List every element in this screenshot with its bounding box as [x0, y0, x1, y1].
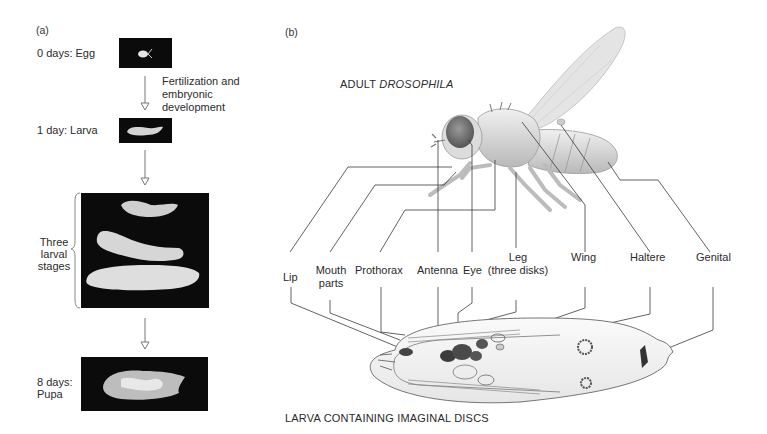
label-mouth-parts: Mouth parts [311, 264, 351, 290]
label-wing: Wing [571, 251, 596, 264]
label-haltere: Haltere [630, 251, 665, 264]
larva-with-discs [370, 318, 673, 403]
label-genital: Genital [696, 251, 731, 264]
label-leg: Leg (three disks) [487, 251, 549, 277]
adult-fly [430, 27, 625, 210]
fly-and-larva-illustration [0, 0, 767, 434]
label-antenna: Antenna [417, 264, 458, 277]
label-line: (three disks) [487, 264, 549, 277]
label-prothorax: Prothorax [355, 264, 403, 277]
label-eye: Eye [463, 264, 482, 277]
label-line: Leg [487, 251, 549, 264]
label-lip: Lip [283, 271, 298, 284]
label-line: parts [311, 277, 351, 290]
label-line: Mouth [311, 264, 351, 277]
